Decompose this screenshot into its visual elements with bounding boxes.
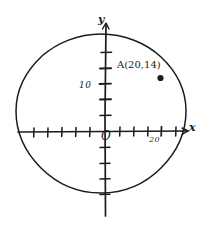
x-axis-label: x (189, 122, 195, 133)
y-axis-tick-label: 10 (79, 81, 91, 90)
coordinate-plane-sketch (0, 0, 210, 229)
origin-label: O (101, 130, 111, 142)
point-a-marker (157, 75, 163, 81)
x-axis-tick-label: 20 (149, 136, 160, 144)
circle-shape (16, 34, 186, 193)
point-a-label: A(20,14) (117, 60, 161, 70)
y-axis-label: y (98, 14, 104, 25)
